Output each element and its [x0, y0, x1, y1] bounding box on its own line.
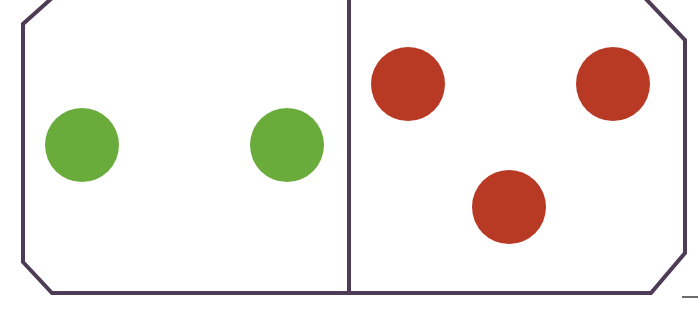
green-dot-1 — [45, 108, 119, 182]
green-dot-2 — [250, 108, 324, 182]
domino-diagram — [0, 0, 698, 322]
tile-outline — [23, 0, 685, 293]
red-dot-3 — [472, 170, 546, 244]
red-dot-1 — [371, 47, 445, 121]
red-dot-2 — [576, 47, 650, 121]
